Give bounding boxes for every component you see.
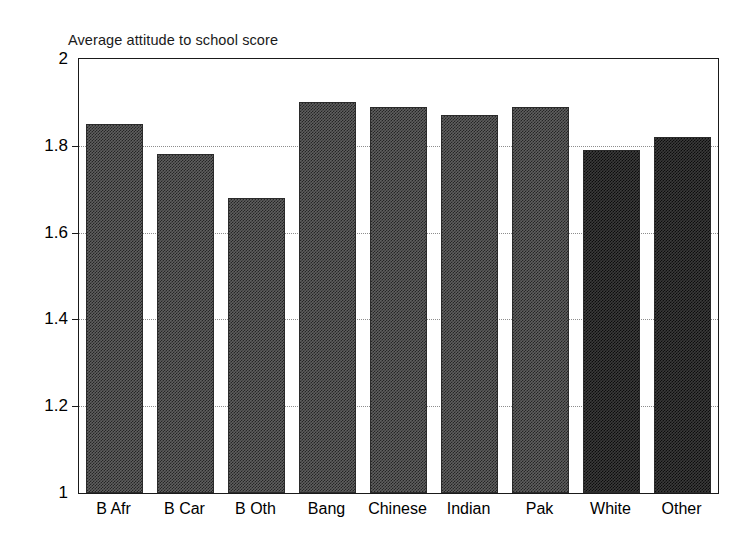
x-axis-tick-label: Indian: [433, 500, 504, 518]
y-tick-mark-1.2: [72, 406, 79, 407]
y-tick-mark-1.6: [72, 233, 79, 234]
y-axis-tick-label: 1.4: [2, 310, 68, 327]
bar-b-afr: [86, 124, 144, 493]
x-axis-tick-label: Pak: [504, 500, 575, 518]
plot-area: [78, 58, 719, 494]
x-axis-tick-label: Bang: [291, 500, 362, 518]
x-axis-labels: B AfrB CarB OthBangChineseIndianPakWhite…: [78, 500, 717, 530]
x-axis-tick-label: B Car: [149, 500, 220, 518]
bar-other: [654, 137, 712, 493]
y-axis-tick-label: 1.2: [2, 397, 68, 414]
x-axis-tick-label: White: [575, 500, 646, 518]
bar-chinese: [370, 107, 428, 493]
bar-bang: [299, 102, 357, 493]
bar-chart: Average attitude to school score 11.21.4…: [0, 0, 756, 552]
y-axis-tick-label: 1.6: [2, 223, 68, 240]
x-axis-tick-label: Chinese: [362, 500, 433, 518]
y-axis-tick-label: 2: [2, 50, 68, 67]
bar-b-car: [157, 154, 215, 493]
y-axis-labels: 11.21.41.61.82: [0, 58, 68, 492]
bar-white: [583, 150, 641, 493]
x-axis-tick-label: B Afr: [78, 500, 149, 518]
bar-b-oth: [228, 198, 286, 493]
x-axis-tick-label: Other: [646, 500, 717, 518]
y-tick-mark-1.8: [72, 146, 79, 147]
chart-title: Average attitude to school score: [68, 32, 278, 48]
y-axis-tick-label: 1.8: [2, 136, 68, 153]
y-axis-tick-label: 1: [2, 484, 68, 501]
y-tick-mark-1.4: [72, 319, 79, 320]
x-axis-tick-label: B Oth: [220, 500, 291, 518]
bar-indian: [441, 115, 499, 493]
bar-pak: [512, 107, 570, 493]
